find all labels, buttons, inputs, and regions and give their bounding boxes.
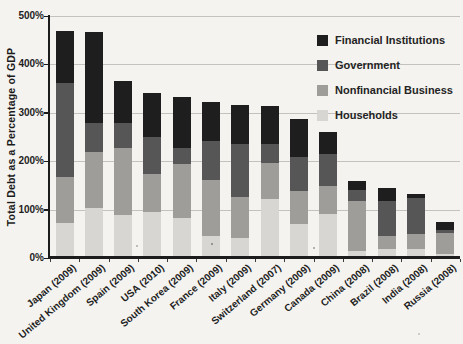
- bar-segment-nonfinancial-business: [290, 191, 308, 224]
- y-axis-line: [48, 15, 50, 258]
- y-tick-label: 100%: [0, 204, 44, 216]
- legend-label: Nonfinancial Business: [335, 84, 453, 96]
- bar-segment-government: [143, 137, 161, 174]
- x-tick-mark: [314, 259, 315, 262]
- bar-group-2: [109, 16, 138, 258]
- bar-group-1: [79, 16, 108, 258]
- bar-segment-nonfinancial-business: [85, 152, 103, 208]
- legend-swatch: [317, 110, 328, 121]
- y-tick-label: 500%: [0, 10, 44, 22]
- bar-segment-financial-institutions: [56, 31, 74, 83]
- x-tick-mark: [109, 259, 110, 262]
- bar-segment-households: [143, 212, 161, 258]
- stacked-bar: [114, 81, 132, 258]
- bar-group-5: [196, 16, 225, 258]
- bar-segment-financial-institutions: [378, 188, 396, 201]
- y-tick-label: 300%: [0, 107, 44, 119]
- bar-segment-nonfinancial-business: [261, 163, 279, 199]
- bar-segment-government: [85, 123, 103, 152]
- bar-segment-government: [231, 144, 249, 197]
- x-tick-mark: [138, 259, 139, 262]
- bar-segment-nonfinancial-business: [348, 201, 366, 250]
- bar-segment-households: [85, 208, 103, 258]
- bar-segment-nonfinancial-business: [319, 186, 337, 214]
- bar-segment-government: [290, 157, 308, 191]
- legend-item-government: Government: [317, 59, 453, 71]
- bar-group-7: [255, 16, 284, 258]
- bar-segment-government: [173, 148, 191, 164]
- bar-segment-government: [114, 123, 132, 148]
- bar-segment-nonfinancial-business: [436, 233, 454, 254]
- stacked-bar: [261, 106, 279, 258]
- x-tick-mark: [196, 259, 197, 262]
- x-tick-mark: [401, 259, 402, 262]
- stacked-bar: [231, 105, 249, 258]
- bar-segment-financial-institutions: [319, 132, 337, 154]
- stacked-bar: [143, 93, 161, 258]
- y-tick-label: 0%: [0, 252, 44, 264]
- legend-item-households: Households: [317, 109, 453, 121]
- bar-segment-households: [56, 223, 74, 258]
- bar-segment-households: [114, 215, 132, 258]
- x-tick-mark: [372, 259, 373, 262]
- bar-segment-government: [202, 141, 220, 180]
- x-tick-mark: [255, 259, 256, 262]
- bar-segment-financial-institutions: [290, 119, 308, 158]
- bar-segment-households: [202, 236, 220, 258]
- bar-segment-nonfinancial-business: [231, 197, 249, 238]
- legend-swatch: [317, 60, 328, 71]
- y-tick-label: 400%: [0, 58, 44, 70]
- stacked-bar: [378, 188, 396, 258]
- bar-group-4: [167, 16, 196, 258]
- x-tick-mark: [460, 259, 461, 262]
- stacked-bar: [407, 194, 425, 258]
- bar-segment-financial-institutions: [231, 105, 249, 144]
- x-tick-mark: [167, 259, 168, 262]
- x-axis-line: [48, 256, 460, 259]
- stacked-bar: [85, 32, 103, 258]
- legend-item-nonfinancial-business: Nonfinancial Business: [317, 84, 453, 96]
- bar-segment-financial-institutions: [173, 97, 191, 148]
- x-tick-mark: [226, 259, 227, 262]
- y-axis-title: Total Debt as a Percentage of GDP: [5, 48, 17, 227]
- bar-segment-nonfinancial-business: [173, 164, 191, 218]
- bar-segment-nonfinancial-business: [378, 236, 396, 249]
- bar-segment-government: [407, 198, 425, 233]
- x-tick-mark: [79, 259, 80, 262]
- stacked-bar: [290, 119, 308, 258]
- bar-segment-financial-institutions: [85, 32, 103, 123]
- bar-segment-financial-institutions: [114, 81, 132, 123]
- bar-segment-households: [290, 224, 308, 258]
- bar-segment-financial-institutions: [143, 93, 161, 137]
- stacked-bar: [202, 102, 220, 258]
- bar-segment-households: [319, 214, 337, 258]
- x-tick-mark: [284, 259, 285, 262]
- bar-segment-financial-institutions: [261, 106, 279, 145]
- bar-segment-government: [56, 83, 74, 177]
- legend-label: Households: [335, 109, 398, 121]
- legend-label: Financial Institutions: [335, 34, 445, 46]
- stacked-bar: [319, 132, 337, 258]
- bar-segment-government: [378, 201, 396, 236]
- legend-item-financial-institutions: Financial Institutions: [317, 34, 453, 46]
- x-tick-mark: [343, 259, 344, 262]
- stacked-bar: [348, 181, 366, 258]
- bar-segment-nonfinancial-business: [143, 174, 161, 212]
- bar-segment-financial-institutions: [436, 222, 454, 231]
- legend-label: Government: [335, 59, 400, 71]
- bar-segment-financial-institutions: [348, 181, 366, 190]
- legend-swatch: [317, 85, 328, 96]
- stacked-bar: [436, 222, 454, 258]
- bar-group-6: [226, 16, 255, 258]
- bar-group-8: [284, 16, 313, 258]
- bar-segment-nonfinancial-business: [202, 180, 220, 237]
- stacked-bar: [173, 97, 191, 258]
- bar-segment-nonfinancial-business: [56, 177, 74, 223]
- legend-swatch: [317, 35, 328, 46]
- scan-speckle-artifacts: [0, 0, 2, 2]
- bar-segment-financial-institutions: [202, 102, 220, 141]
- stacked-bar: [56, 31, 74, 258]
- debt-chart-figure: Total Debt as a Percentage of GDP 0%100%…: [0, 0, 463, 344]
- bar-segment-households: [261, 199, 279, 258]
- bar-segment-government: [261, 144, 279, 162]
